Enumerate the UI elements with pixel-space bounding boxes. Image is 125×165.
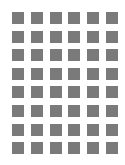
grid-square (68, 49, 80, 61)
grid-square (50, 31, 62, 43)
grid-square (87, 105, 99, 117)
grid-square (106, 68, 118, 80)
grid-square (106, 86, 118, 98)
grid-square (50, 68, 62, 80)
grid-square (31, 31, 43, 43)
grid-square (31, 12, 43, 24)
grid-square (31, 86, 43, 98)
grid-square (12, 31, 24, 43)
grid-square (68, 124, 80, 136)
grid-square (50, 86, 62, 98)
grid-square (31, 105, 43, 117)
grid-square (68, 86, 80, 98)
grid-square (31, 49, 43, 61)
grid-square (87, 49, 99, 61)
grid-square (106, 124, 118, 136)
grid-square (68, 68, 80, 80)
grid-square (106, 49, 118, 61)
grid-square (87, 124, 99, 136)
grid-square (12, 86, 24, 98)
grid-square (12, 49, 24, 61)
grid-square (12, 142, 24, 154)
grid-square (106, 12, 118, 24)
grid-square (106, 105, 118, 117)
grid-square (68, 105, 80, 117)
grid-square (50, 105, 62, 117)
grid-square (106, 142, 118, 154)
square-grid (12, 12, 118, 154)
grid-square (50, 12, 62, 24)
grid-square (87, 68, 99, 80)
grid-square (12, 12, 24, 24)
grid-square (12, 124, 24, 136)
grid-square (87, 142, 99, 154)
grid-square (68, 12, 80, 24)
grid-square (87, 31, 99, 43)
grid-square (31, 142, 43, 154)
grid-square (12, 68, 24, 80)
grid-square (87, 12, 99, 24)
grid-square (31, 124, 43, 136)
grid-square (50, 142, 62, 154)
grid-square (50, 49, 62, 61)
grid-square (50, 124, 62, 136)
grid-square (31, 68, 43, 80)
grid-square (12, 105, 24, 117)
grid-square (68, 142, 80, 154)
grid-square (87, 86, 99, 98)
grid-square (106, 31, 118, 43)
grid-square (68, 31, 80, 43)
